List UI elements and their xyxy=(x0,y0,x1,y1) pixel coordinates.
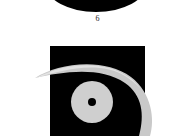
clipped-black-lens-shape xyxy=(46,0,146,12)
figure-above-caption: 6 xyxy=(0,14,195,24)
figure-page: 6 xyxy=(0,0,195,136)
figure-above-clipped-region xyxy=(0,0,195,14)
figure-main xyxy=(0,40,195,136)
pupil-dot xyxy=(88,98,96,106)
eye-logo-graphic xyxy=(0,40,195,136)
